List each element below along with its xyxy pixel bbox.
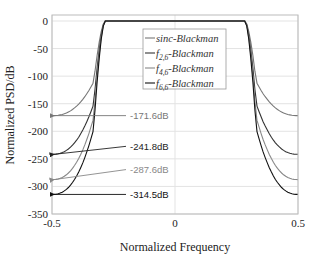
y-axis-ticks: 0-50-100-150-200-250-300-350 bbox=[28, 15, 49, 220]
y-axis-label: Normalized PSD/dB bbox=[3, 66, 17, 165]
annotation-arrow bbox=[54, 170, 126, 180]
y-tick-label: -300 bbox=[28, 180, 49, 192]
legend-entry: sinc-Blackman bbox=[156, 33, 218, 44]
annotation-label: -171.6dB bbox=[130, 110, 169, 121]
y-tick-label: 0 bbox=[43, 15, 49, 27]
x-axis-ticks: -0.500.5 bbox=[43, 217, 305, 229]
annotation-label: -314.5dB bbox=[130, 189, 169, 200]
legend: sinc-Blackmanf2,6-Blackmanf4,6-Blackmanf… bbox=[143, 29, 226, 92]
x-tick-label: 0.5 bbox=[291, 217, 305, 229]
y-tick-label: -100 bbox=[28, 70, 49, 82]
annotation-label: -241.8dB bbox=[130, 141, 169, 152]
y-tick-label: -200 bbox=[28, 125, 49, 137]
x-tick-label: 0 bbox=[172, 217, 178, 229]
x-axis-label: Normalized Frequency bbox=[120, 240, 230, 254]
y-tick-label: -50 bbox=[33, 43, 48, 55]
psd-chart: 0-50-100-150-200-250-300-350 -0.500.5 -1… bbox=[0, 0, 318, 259]
annotation-label: -287.6dB bbox=[130, 164, 169, 175]
y-tick-label: -250 bbox=[28, 153, 49, 165]
x-tick-label: -0.5 bbox=[43, 217, 61, 229]
y-tick-label: -150 bbox=[28, 98, 49, 110]
annotation-arrow bbox=[54, 146, 126, 154]
